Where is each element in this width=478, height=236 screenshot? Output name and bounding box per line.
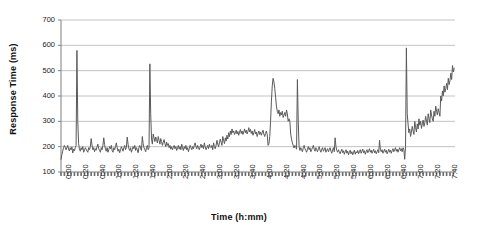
x-tick-label: 4:00: [265, 179, 280, 188]
x-tick-label: 2:20: [181, 179, 196, 188]
y-tick-label: 300: [29, 116, 55, 125]
x-tick-label: 2:40: [198, 179, 213, 188]
x-tick-label: 6:20: [383, 179, 398, 188]
y-tick-label: 600: [29, 40, 55, 49]
x-tick-label: 1:00: [114, 179, 129, 188]
x-tick-label: 5:20: [332, 179, 347, 188]
x-tick-label: 0:40: [98, 179, 113, 188]
x-axis-title-text: Time (h:mm): [211, 212, 267, 222]
plot-area: [0, 0, 478, 236]
x-tick-label: 3:40: [248, 179, 263, 188]
x-tick-label: 7:20: [433, 179, 448, 188]
x-tick-label: 2:00: [165, 179, 180, 188]
axis-ticks: [58, 20, 453, 176]
x-tick-label: 0:00: [64, 179, 79, 188]
x-tick-label: 4:20: [282, 179, 297, 188]
x-tick-label: 6:00: [366, 179, 381, 188]
x-tick-label: 7:00: [416, 179, 431, 188]
x-tick-label: 0:20: [81, 179, 96, 188]
x-axis-title: Time (h:mm): [0, 212, 478, 222]
x-tick-label: 3:00: [215, 179, 230, 188]
x-tick-label: 1:40: [148, 179, 163, 188]
data-series-line: [61, 48, 454, 159]
x-tick-label: 5:40: [349, 179, 364, 188]
response-time-chart: Response Time (ms) 100200300400500600700…: [0, 0, 478, 236]
x-tick-label: 4:40: [299, 179, 314, 188]
x-tick-label: 1:20: [131, 179, 146, 188]
x-tick-label: 5:00: [315, 179, 330, 188]
x-tick-label: 6:40: [399, 179, 414, 188]
x-tick-label: 7:40: [450, 179, 465, 188]
y-tick-label: 100: [29, 167, 55, 176]
y-tick-label: 700: [29, 15, 55, 24]
x-tick-label: 3:20: [232, 179, 247, 188]
y-tick-label: 500: [29, 66, 55, 75]
y-tick-label: 200: [29, 142, 55, 151]
y-tick-label: 400: [29, 91, 55, 100]
